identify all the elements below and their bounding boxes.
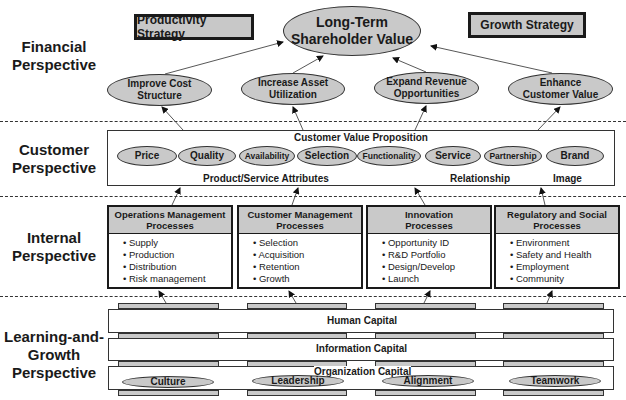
process-item: Design/Develop [382, 261, 490, 273]
label-line: Opportunities [386, 88, 467, 100]
attribute-functionality: Functionality [357, 146, 421, 166]
label: Alignment [404, 375, 453, 386]
label-line: Processes [247, 220, 352, 231]
label-line: Shareholder Value [291, 31, 413, 48]
relationship-label: Relationship [450, 173, 510, 184]
label: Culture [151, 376, 186, 387]
process-items: Selection Acquisition Retention Growth [239, 237, 361, 285]
image-label: Image [553, 173, 582, 184]
attribute-selection: Selection [297, 146, 357, 166]
label-line: Perspective [0, 159, 108, 177]
growth-strategy-label: Growth Strategy [480, 18, 573, 32]
label-line: Structure [128, 90, 192, 102]
label: Selection [305, 150, 349, 162]
customer-perspective-label: Customer Perspective [0, 141, 108, 177]
label-line: Learning-and- [0, 328, 108, 346]
process-item: Production [123, 249, 231, 261]
org-item-leadership: Leadership [252, 375, 344, 387]
cvp-title: Customer Value Proposition [108, 132, 614, 143]
financial-perspective-label: Financial Perspective [0, 38, 108, 74]
label: Partnership [489, 150, 536, 162]
process-item: Selection [253, 237, 361, 249]
organization-capital-label: Organization Capital [314, 366, 411, 377]
label-line: Perspective [0, 247, 108, 265]
label: Quality [190, 150, 224, 162]
label-line: Improve Cost [128, 78, 192, 90]
process-item: Environment [510, 237, 618, 249]
productivity-strategy-label: Productivity Strategy [137, 13, 251, 41]
process-header: Customer ManagementProcesses [239, 207, 361, 234]
learning-perspective-label: Learning-and- Growth Perspective [0, 328, 108, 382]
process-item: Employment [510, 261, 618, 273]
growth-strategy-box: Growth Strategy [468, 12, 586, 38]
column-tab [375, 390, 476, 396]
label-line: Expand Revenue [386, 76, 467, 88]
label-line: Growth [0, 346, 108, 364]
org-item-alignment: Alignment [382, 375, 474, 387]
column-tab [118, 390, 219, 396]
process-items: Supply Production Distribution Risk mana… [109, 237, 231, 285]
process-header: Regulatory and SocialProcesses [496, 207, 618, 234]
label-line: Increase Asset [258, 77, 328, 89]
separator-customer-internal [0, 196, 626, 197]
process-header: Operations ManagementProcesses [109, 207, 231, 234]
attribute-quality: Quality [178, 146, 236, 166]
shareholder-value-goal: Long-TermShareholder Value [283, 6, 421, 56]
process-items: Environment Safety and Health Employment… [496, 237, 618, 285]
column-tab [247, 390, 347, 396]
productivity-strategy-box: Productivity Strategy [134, 14, 254, 40]
label-line: Innovation [405, 209, 453, 220]
objective-enhance-customer-value: EnhanceCustomer Value [508, 73, 613, 105]
label-line: Financial [0, 38, 108, 56]
information-capital-label: Information Capital [316, 343, 407, 354]
column-tab [503, 390, 604, 396]
attribute-partnership: Partnership [484, 146, 542, 166]
process-item: Community [510, 273, 618, 285]
process-operations-management: Operations ManagementProcesses Supply Pr… [107, 205, 233, 289]
label: Functionality [363, 150, 416, 162]
label-line: Customer Value [523, 89, 599, 101]
label-line: Regulatory and Social [507, 209, 607, 220]
label-line: Perspective [0, 364, 108, 382]
label-line: Perspective [0, 56, 108, 74]
process-items: Opportunity ID R&D Portfolio Design/Deve… [368, 237, 490, 285]
label: Availability [245, 150, 290, 162]
attribute-price: Price [117, 146, 177, 166]
label: Leadership [271, 375, 324, 386]
label-line: Internal [0, 229, 108, 247]
attribute-brand: Brand [546, 146, 604, 166]
objective-improve-cost: Improve CostStructure [107, 74, 212, 106]
process-item: Retention [253, 261, 361, 273]
label: Teamwork [531, 375, 580, 386]
human-capital-bar: Human Capital [108, 309, 614, 333]
label-line: Enhance [523, 77, 599, 89]
objective-increase-asset: Increase AssetUtilization [241, 73, 345, 105]
process-item: Launch [382, 273, 490, 285]
process-item: Risk management [123, 273, 231, 285]
process-customer-management: Customer ManagementProcesses Selection A… [237, 205, 363, 289]
process-innovation: InnovationProcesses Opportunity ID R&D P… [366, 205, 492, 289]
process-item: R&D Portfolio [382, 249, 490, 261]
process-item: Opportunity ID [382, 237, 490, 249]
information-capital-bar: Information Capital [108, 338, 614, 361]
process-item: Distribution [123, 261, 231, 273]
label: Service [435, 150, 471, 162]
process-regulatory-social: Regulatory and SocialProcesses Environme… [494, 205, 620, 289]
label-line: Processes [507, 220, 607, 231]
label-line: Operations Management [115, 209, 226, 220]
product-service-attributes-label: Product/Service Attributes [203, 173, 329, 184]
process-header: InnovationProcesses [368, 207, 490, 234]
human-capital-label: Human Capital [327, 315, 397, 326]
label-line: Processes [115, 220, 226, 231]
label-line: Customer Management [247, 209, 352, 220]
process-item: Acquisition [253, 249, 361, 261]
label: Price [135, 150, 159, 162]
label-line: Processes [405, 220, 453, 231]
org-item-teamwork: Teamwork [509, 375, 601, 387]
process-item: Supply [123, 237, 231, 249]
separator-internal-learning [0, 296, 626, 297]
label-line: Customer [0, 141, 108, 159]
process-item: Safety and Health [510, 249, 618, 261]
label-line: Long-Term [291, 14, 413, 31]
separator-financial-customer [0, 121, 626, 122]
